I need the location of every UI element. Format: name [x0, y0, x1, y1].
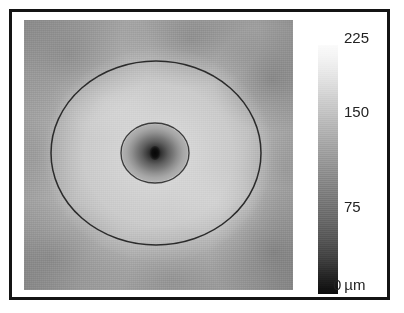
- central-pit-core: [150, 146, 161, 160]
- colorbar-zero-value: 0: [333, 276, 341, 293]
- colorbar-tick-0-with-unit: 0µm: [333, 276, 365, 293]
- colorbar-tick-150: 150: [344, 103, 369, 120]
- colorbar-tick-225: 225: [344, 29, 369, 46]
- colorbar-grain-texture: [318, 45, 338, 294]
- contour-overlay: [24, 20, 293, 290]
- depth-scale-colorbar: [318, 45, 338, 294]
- colorbar-tick-75: 75: [344, 198, 361, 215]
- figure-root: 225 150 75 0µm: [0, 0, 404, 313]
- colorbar-gradient: [318, 45, 338, 294]
- colorbar-unit-label: µm: [344, 276, 365, 293]
